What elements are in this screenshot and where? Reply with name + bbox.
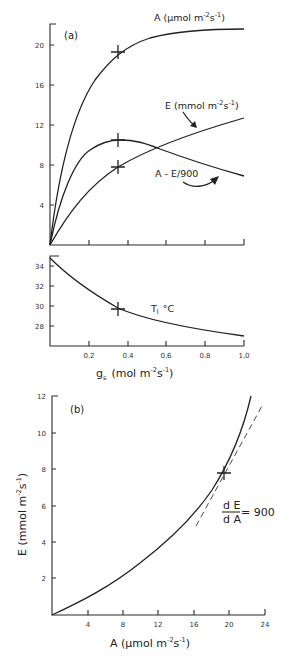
xtick-label: 16 [190, 621, 199, 629]
panel-b-xticks [88, 609, 265, 615]
marker-cross-A [111, 45, 125, 59]
y-axis-title-E: E (mmol m-2s-1) [15, 473, 29, 556]
xtick-label: 8 [121, 621, 125, 629]
panel-tl-xticks [89, 340, 244, 346]
xtick-label: 0.6 [160, 352, 172, 360]
xtick-label: 0.4 [122, 352, 134, 360]
x-axis-title-gs: gs(mol m-2s-1) [96, 366, 173, 382]
xtick-label: 12 [154, 621, 163, 629]
label-dA: d A [223, 513, 241, 526]
xtick-label: 1.0 [238, 352, 249, 360]
panel-label-a: (a) [64, 30, 78, 41]
ytick-label: 20 [35, 42, 44, 50]
panel-b: 2 4 6 8 10 12 4 8 12 16 20 24 (b) d E d … [15, 393, 275, 651]
panel-label-b: (b) [70, 404, 84, 415]
ytick-label: 4 [40, 202, 45, 210]
marker-cross-Tl [111, 302, 125, 316]
ytick-label: 8 [42, 466, 46, 474]
panel-tl-yticks [50, 266, 54, 326]
xtick-label: 0.2 [83, 352, 94, 360]
ytick-label: 30 [35, 303, 44, 311]
curve-Tl [50, 258, 244, 336]
arrow-to-AE [183, 180, 215, 186]
x-axis-title-A: A (µmol m-2s-1) [110, 636, 190, 650]
ytick-label: 12 [35, 122, 44, 130]
curve-A [50, 29, 244, 245]
panel-b-yticks [52, 433, 56, 578]
label-eq900: = 900 [241, 506, 275, 519]
xtick-label: 4 [86, 621, 91, 629]
arrow-head-icon [210, 176, 219, 185]
ytick-label: 4 [42, 539, 47, 547]
marker-cross-AE [111, 133, 125, 147]
ytick-label: 16 [35, 82, 44, 90]
label-AE-curve: A - E/900 [155, 168, 198, 179]
curve-E-vs-A [52, 396, 251, 615]
label-A-curve: A (µmol m-2s-1) [154, 11, 225, 23]
panel-a-upper: 4 8 12 16 20 (a) A (µmol m-2s-1) E (mmol… [35, 11, 244, 245]
panel-a-yticks [50, 45, 54, 205]
panel-a-lower: 34 32 30 28 0.2 0.4 0.6 0.8 1.0 Tl°C gs(… [35, 256, 249, 382]
curve-A-minus-E900 [50, 140, 244, 245]
panel-a-xticks [89, 239, 244, 245]
label-E-curve: E (mmol m-2s-1) [165, 99, 239, 111]
xtick-label: 0.8 [199, 352, 210, 360]
ytick-label: 2 [42, 575, 46, 583]
ytick-label: 12 [37, 393, 46, 401]
panel-a-axes [50, 24, 244, 245]
ytick-label: 34 [35, 263, 44, 271]
ytick-label: 32 [35, 283, 44, 291]
label-Tl-curve: Tl°C [150, 303, 174, 316]
figure: 4 8 12 16 20 (a) A (µmol m-2s-1) E (mmol… [0, 0, 294, 660]
xtick-label: 20 [225, 621, 234, 629]
ytick-label: 8 [40, 162, 44, 170]
label-dE: d E [223, 499, 240, 512]
panel-tl-axes [50, 256, 244, 346]
xtick-label: 24 [261, 621, 270, 629]
ytick-label: 10 [37, 430, 46, 438]
ytick-label: 6 [42, 503, 47, 511]
ytick-label: 28 [35, 323, 44, 331]
marker-cross-E [111, 160, 125, 174]
